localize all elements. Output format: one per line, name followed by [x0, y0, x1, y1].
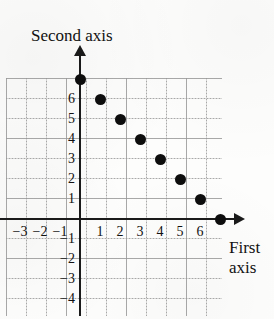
- x-axis-line: [0, 218, 236, 220]
- y-tick-label: −1: [60, 232, 75, 246]
- data-point: [175, 174, 186, 185]
- x-tick-label: −2: [33, 225, 48, 239]
- chart-figure: −3−2−1123456 654321−1−2−3−4 Second axis …: [0, 0, 274, 319]
- x-tick-label: 4: [157, 225, 164, 239]
- x-tick-label: −3: [13, 225, 28, 239]
- x-tick-label: 2: [117, 225, 124, 239]
- y-tick-label: 3: [68, 152, 75, 166]
- y-tick-label: 1: [68, 192, 75, 206]
- x-axis-arrow-icon: [234, 213, 245, 225]
- data-point: [95, 94, 106, 105]
- y-tick-label: 5: [68, 112, 75, 126]
- y-tick-label: −4: [60, 292, 75, 306]
- scatter-plot: −3−2−1123456 654321−1−2−3−4 Second axis …: [0, 0, 274, 319]
- y-tick-label: 6: [68, 92, 75, 106]
- x-axis-title: First axis: [229, 238, 274, 277]
- x-tick-label: 3: [137, 225, 144, 239]
- data-point: [135, 134, 146, 145]
- y-axis-title: Second axis: [31, 26, 113, 46]
- y-tick-label: −3: [60, 272, 75, 286]
- y-tick-label: 2: [68, 172, 75, 186]
- data-point: [115, 114, 126, 125]
- data-point: [75, 74, 86, 85]
- y-axis-line: [79, 54, 81, 316]
- x-tick-label: 6: [197, 225, 204, 239]
- data-point: [155, 154, 166, 165]
- y-tick-label: 4: [68, 132, 75, 146]
- x-tick-label: 1: [97, 225, 104, 239]
- grid-lines: [6, 78, 222, 316]
- y-axis-arrow-icon: [74, 45, 86, 56]
- y-tick-label: −2: [60, 252, 75, 266]
- data-point: [195, 194, 206, 205]
- data-point: [215, 214, 226, 225]
- x-tick-label: 5: [177, 225, 184, 239]
